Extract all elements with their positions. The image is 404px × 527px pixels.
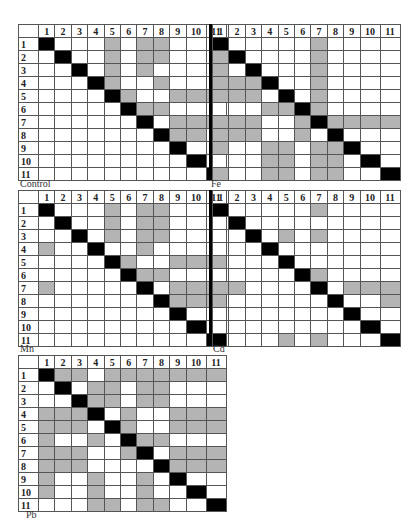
empty-cell [262, 282, 278, 295]
shaded-cell [262, 155, 278, 168]
shaded-cell [71, 460, 87, 473]
empty-cell [120, 334, 136, 347]
empty-cell [344, 204, 360, 217]
column-header: 1 [213, 191, 229, 204]
diagonal-cell [55, 51, 71, 64]
shaded-cell [186, 447, 206, 460]
row-header: 4 [19, 408, 39, 421]
empty-cell [55, 434, 71, 447]
empty-cell [294, 204, 310, 217]
empty-cell [55, 321, 71, 334]
empty-cell [380, 155, 400, 168]
empty-cell [360, 38, 380, 51]
shaded-cell [104, 369, 120, 382]
column-header: 9 [344, 25, 360, 38]
shaded-cell [360, 116, 380, 129]
shaded-cell [278, 230, 294, 243]
empty-cell [360, 168, 380, 181]
matrix-row [213, 321, 401, 334]
column-header: 1 [39, 191, 55, 204]
empty-cell [380, 217, 400, 230]
shaded-cell [170, 447, 186, 460]
empty-cell [327, 334, 343, 347]
empty-cell [55, 90, 71, 103]
empty-cell [137, 460, 153, 473]
diagonal-cell [170, 473, 186, 486]
diagonal-cell [311, 116, 327, 129]
empty-cell [71, 129, 87, 142]
empty-cell [206, 395, 226, 408]
empty-cell [120, 142, 136, 155]
empty-cell [360, 51, 380, 64]
empty-cell [294, 168, 310, 181]
empty-cell [311, 295, 327, 308]
matrix-fe-table: 1234567891011 [212, 24, 401, 181]
empty-cell [360, 256, 380, 269]
empty-cell [137, 408, 153, 421]
caption-cd: Cd [213, 343, 225, 354]
empty-cell [71, 256, 87, 269]
empty-cell [153, 408, 169, 421]
empty-cell [294, 334, 310, 347]
empty-cell [245, 321, 261, 334]
column-header: 2 [55, 356, 71, 369]
shaded-cell [245, 77, 261, 90]
empty-cell [360, 334, 380, 347]
empty-cell [104, 334, 120, 347]
column-header: 2 [229, 191, 245, 204]
empty-cell [153, 473, 169, 486]
shaded-cell [153, 217, 169, 230]
empty-cell [88, 90, 104, 103]
empty-cell [278, 116, 294, 129]
empty-cell [360, 308, 380, 321]
row-header: 8 [19, 129, 39, 142]
shaded-cell [245, 90, 261, 103]
empty-cell [229, 204, 245, 217]
shaded-cell [344, 116, 360, 129]
empty-cell [245, 204, 261, 217]
shaded-cell [170, 256, 186, 269]
empty-cell [88, 308, 104, 321]
column-header: 6 [120, 191, 136, 204]
empty-cell [137, 308, 153, 321]
diagonal-cell [344, 142, 360, 155]
empty-cell [170, 321, 186, 334]
empty-cell [213, 243, 229, 256]
row-header: 9 [19, 142, 39, 155]
column-header: 5 [104, 356, 120, 369]
shaded-cell [88, 434, 104, 447]
row-header: 2 [19, 382, 39, 395]
diagonal-cell [245, 230, 261, 243]
shaded-cell [104, 230, 120, 243]
shaded-cell [311, 38, 327, 51]
matrix-row: 2 [19, 217, 227, 230]
matrix-row [213, 77, 401, 90]
empty-cell [186, 382, 206, 395]
empty-cell [229, 168, 245, 181]
diagonal-cell [104, 256, 120, 269]
empty-cell [294, 155, 310, 168]
shaded-cell [120, 369, 136, 382]
empty-cell [39, 269, 55, 282]
shaded-cell [88, 395, 104, 408]
matrix-row [213, 64, 401, 77]
matrix-row [213, 243, 401, 256]
empty-cell [137, 77, 153, 90]
empty-cell [262, 38, 278, 51]
empty-cell [344, 243, 360, 256]
column-header: 6 [294, 25, 310, 38]
column-header: 8 [327, 25, 343, 38]
empty-cell [55, 256, 71, 269]
empty-cell [278, 129, 294, 142]
empty-cell [120, 38, 136, 51]
diagonal-cell [55, 217, 71, 230]
empty-cell [104, 282, 120, 295]
empty-cell [213, 230, 229, 243]
shaded-cell [39, 473, 55, 486]
empty-cell [278, 295, 294, 308]
empty-cell [88, 168, 104, 181]
row-header: 3 [19, 230, 39, 243]
matrix-control-table: 12345678910111234567891011 [18, 24, 227, 181]
empty-cell [153, 155, 169, 168]
column-header: 9 [344, 191, 360, 204]
